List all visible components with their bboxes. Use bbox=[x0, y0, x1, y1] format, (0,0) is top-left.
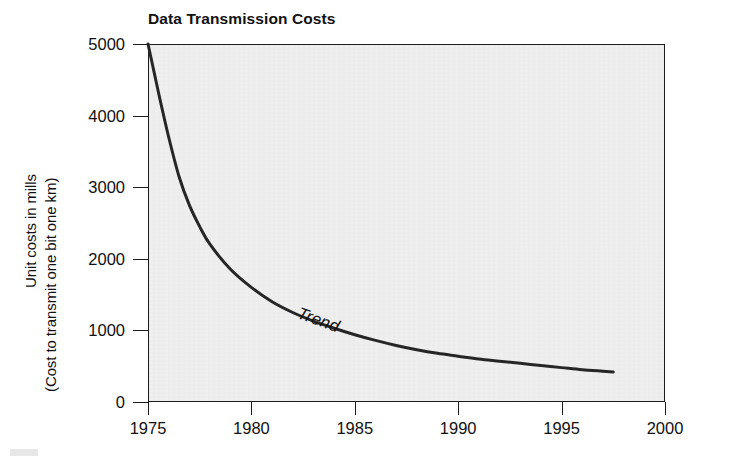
y-axis-tick-label: 0 bbox=[53, 393, 125, 412]
x-axis-tick-label: 1990 bbox=[418, 419, 498, 438]
plot-area bbox=[148, 44, 665, 402]
x-axis-tick-label: 1995 bbox=[522, 419, 602, 438]
x-axis-tick bbox=[458, 402, 459, 415]
x-axis-tick bbox=[148, 402, 149, 415]
y-axis-label-line-1: Unit costs in mills bbox=[22, 174, 39, 288]
x-axis-tick-label: 2000 bbox=[625, 419, 705, 438]
x-axis-tick bbox=[251, 402, 252, 415]
y-axis-tick bbox=[133, 116, 149, 117]
x-axis-tick bbox=[562, 402, 563, 415]
x-axis-tick bbox=[355, 402, 356, 415]
y-axis-tick-label: 2000 bbox=[53, 249, 125, 268]
plot-background-texture bbox=[149, 45, 664, 401]
y-axis-tick bbox=[133, 330, 149, 331]
scan-artifact bbox=[10, 449, 38, 456]
y-axis-tick bbox=[133, 44, 149, 45]
x-axis-tick-label: 1985 bbox=[315, 419, 395, 438]
y-axis-tick-label: 1000 bbox=[53, 321, 125, 340]
x-axis-tick-label: 1980 bbox=[211, 419, 291, 438]
y-axis-tick-label: 5000 bbox=[53, 35, 125, 54]
y-axis-label-line-2: (Cost to transmit one bit one km) bbox=[42, 178, 59, 392]
x-axis-tick-label: 1975 bbox=[108, 419, 188, 438]
y-axis-tick bbox=[133, 259, 149, 260]
y-axis-tick-label: 3000 bbox=[53, 178, 125, 197]
y-axis-tick bbox=[133, 187, 149, 188]
chart-page: Data Transmission Costs Unit costs in mi… bbox=[0, 0, 734, 464]
x-axis-tick bbox=[665, 402, 666, 415]
y-axis-tick bbox=[133, 402, 149, 403]
y-axis-tick-label: 4000 bbox=[53, 106, 125, 125]
page-title: Data Transmission Costs bbox=[148, 10, 336, 28]
